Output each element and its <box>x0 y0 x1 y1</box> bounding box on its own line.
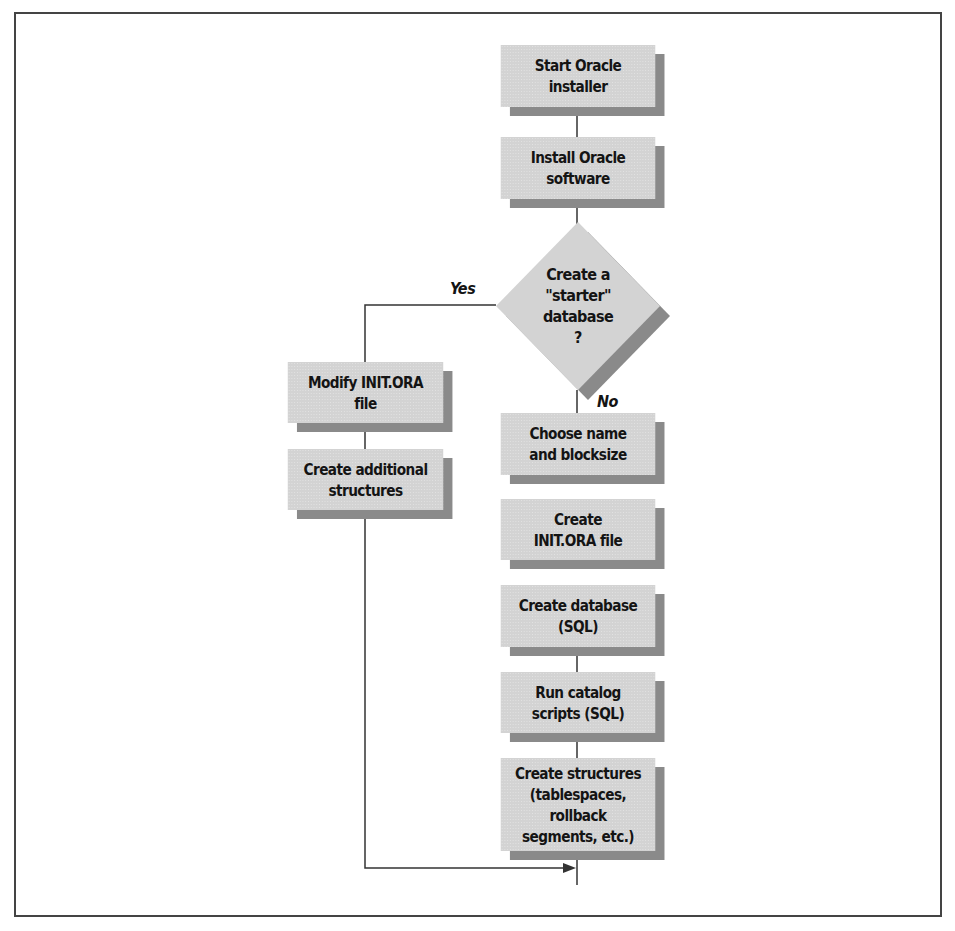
node-label: Create structures (tablespaces, rollback… <box>501 763 656 847</box>
node-create-database: Create database (SQL) <box>501 585 656 647</box>
node-create-init-ora: Create INIT.ORA file <box>501 499 656 560</box>
node-label: Install Oracle software <box>531 147 626 189</box>
connectors-layer <box>0 0 955 931</box>
node-start-oracle-installer: Start Oracle installer <box>501 45 656 107</box>
node-choose-name-blocksize: Choose name and blocksize <box>501 413 656 475</box>
edge-label-no: No <box>597 392 618 411</box>
node-label: Modify INIT.ORA file <box>308 372 423 414</box>
node-label: Run catalog scripts (SQL) <box>532 682 624 724</box>
node-label: Create INIT.ORA file <box>534 509 623 551</box>
node-modify-init-ora: Modify INIT.ORA file <box>288 362 443 423</box>
edge-label-yes: Yes <box>450 279 475 298</box>
node-label: Create database (SQL) <box>519 595 638 637</box>
decision-label-container: Create a "starter" database ? <box>518 270 638 342</box>
node-create-structures: Create structures (tablespaces, rollback… <box>501 758 656 851</box>
node-create-additional-structures: Create additional structures <box>288 449 443 510</box>
node-label: Start Oracle installer <box>535 55 622 97</box>
node-install-oracle-software: Install Oracle software <box>501 137 656 199</box>
node-label: Create a "starter" database ? <box>518 264 638 348</box>
node-label: Create additional structures <box>303 459 427 501</box>
connector-yes-branch <box>365 305 496 362</box>
node-run-catalog-scripts: Run catalog scripts (SQL) <box>501 672 656 733</box>
node-label: Choose name and blocksize <box>529 423 626 465</box>
arrowhead-icon <box>563 863 576 873</box>
